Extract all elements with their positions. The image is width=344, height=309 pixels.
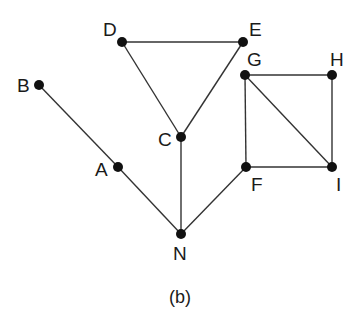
node-label-D: D	[103, 20, 117, 39]
node-label-B: B	[17, 76, 30, 95]
node-label-H: H	[330, 50, 344, 69]
node-F	[241, 162, 251, 172]
node-I	[327, 162, 337, 172]
edge-E-C	[181, 42, 243, 137]
edge-G-F	[245, 75, 246, 167]
node-A	[113, 162, 123, 172]
node-D	[117, 37, 127, 47]
node-E	[238, 37, 248, 47]
edge-D-C	[122, 42, 181, 137]
node-label-G: G	[247, 50, 262, 69]
node-label-N: N	[173, 244, 187, 263]
node-N	[176, 229, 186, 239]
node-label-E: E	[249, 20, 262, 39]
edge-G-I	[245, 75, 332, 167]
figure-caption: (b)	[169, 288, 191, 306]
node-label-C: C	[158, 130, 172, 149]
node-label-I: I	[336, 175, 341, 194]
node-C	[176, 132, 186, 142]
node-label-F: F	[251, 175, 263, 194]
node-B	[34, 80, 44, 90]
edge-N-F	[181, 167, 246, 234]
edge-A-N	[118, 167, 181, 234]
edge-B-A	[39, 85, 118, 167]
node-label-A: A	[95, 160, 108, 179]
node-H	[327, 70, 337, 80]
node-G	[240, 70, 250, 80]
